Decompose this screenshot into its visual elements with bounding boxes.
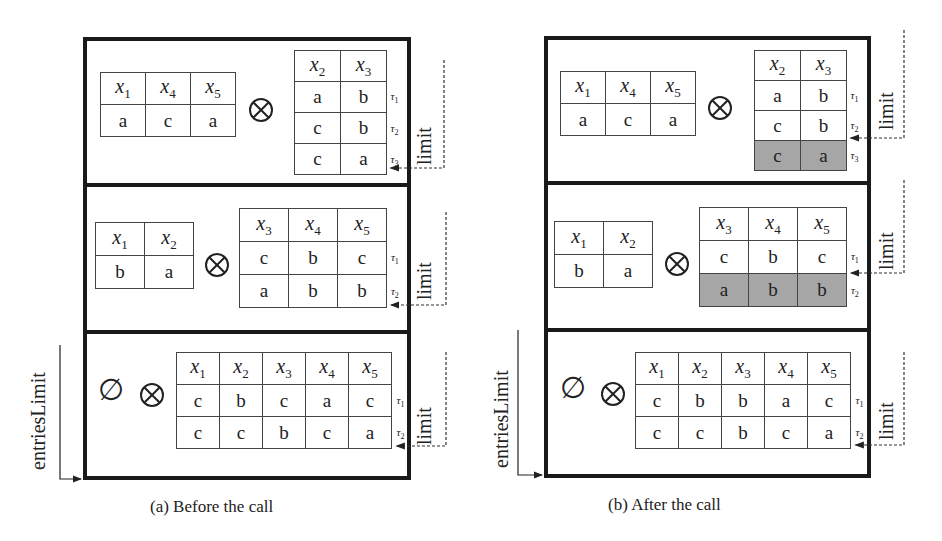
- limit-pointer-arrow: [851, 180, 904, 273]
- arrows-layer: [0, 0, 942, 541]
- limit-pointer-arrow: [391, 212, 446, 305]
- limit-pointer-arrow: [851, 30, 904, 138]
- otimes-operator-icon: [709, 97, 731, 119]
- otimes-operator-icon: [666, 253, 688, 275]
- limit-pointer-arrow: [391, 60, 444, 168]
- entries-limit-arrow: [518, 330, 542, 475]
- limit-pointer-arrow: [397, 352, 447, 446]
- otimes-operator-icon: [250, 99, 272, 121]
- otimes-operator-icon: [602, 383, 624, 405]
- otimes-operator-icon: [206, 254, 228, 276]
- limit-pointer-arrow: [856, 352, 905, 445]
- entries-limit-arrow: [60, 345, 81, 479]
- otimes-operator-icon: [141, 384, 163, 406]
